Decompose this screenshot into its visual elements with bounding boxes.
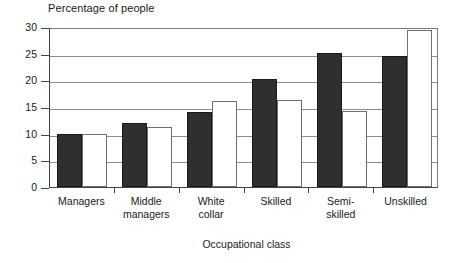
x-label-line: White	[179, 195, 244, 208]
y-tick-label: 20	[25, 74, 37, 86]
x-label-unskilled: Unskilled	[373, 195, 438, 208]
x-label-skilled: Skilled	[244, 195, 309, 208]
y-tick-label: 15	[25, 101, 37, 113]
y-tick-label: 30	[25, 21, 37, 33]
x-tick-mark	[179, 188, 180, 193]
bar-dark	[187, 112, 212, 187]
plot-area	[49, 28, 438, 188]
bar-group	[309, 29, 374, 187]
x-axis-ticks	[49, 188, 438, 194]
x-tick-mark	[308, 188, 309, 193]
bar-group	[245, 29, 310, 187]
y-tick: 15	[0, 108, 49, 109]
y-tick-label: 5	[31, 154, 37, 166]
x-axis-title: Occupational class	[0, 238, 465, 250]
y-tick-label: 10	[25, 128, 37, 140]
bar-light	[147, 127, 172, 187]
y-tick-mark	[41, 188, 49, 189]
bar-dark	[57, 134, 82, 187]
bar-light	[212, 101, 237, 187]
x-axis-title-text: Occupational class	[202, 238, 290, 250]
y-tick: 10	[0, 135, 49, 136]
x-label-line: Middle	[114, 195, 179, 208]
bar-group	[50, 29, 115, 187]
bar-chart-figure: Percentage of people 051015202530 Manage…	[0, 0, 465, 263]
x-tick-mark	[244, 188, 245, 193]
x-label-line: collar	[179, 208, 244, 221]
x-label-line: skilled	[308, 208, 373, 221]
x-label-line: Unskilled	[373, 195, 438, 208]
bar-light	[82, 134, 107, 187]
y-tick: 5	[0, 161, 49, 162]
bar-dark	[122, 123, 147, 187]
x-tick-mark	[373, 188, 374, 193]
y-axis-title: Percentage of people	[48, 2, 155, 14]
y-tick-mark	[41, 55, 49, 56]
x-axis-category-labels: ManagersMiddlemanagersWhitecollarSkilled…	[49, 195, 438, 235]
bars-layer	[50, 29, 437, 187]
y-tick-mark	[41, 135, 49, 136]
bar-group	[180, 29, 245, 187]
bar-group	[374, 29, 439, 187]
bar-light	[407, 30, 432, 187]
x-label-semi-skilled: Semi-skilled	[308, 195, 373, 221]
y-tick-mark	[41, 81, 49, 82]
x-label-line: managers	[114, 208, 179, 221]
x-tick-mark	[114, 188, 115, 193]
y-tick-mark	[41, 108, 49, 109]
x-label-middle-managers: Middlemanagers	[114, 195, 179, 221]
bar-light	[342, 111, 367, 187]
x-label-managers: Managers	[49, 195, 114, 208]
y-tick: 25	[0, 55, 49, 56]
x-label-line: Skilled	[244, 195, 309, 208]
bar-dark	[317, 53, 342, 187]
y-tick-label: 25	[25, 48, 37, 60]
y-tick: 30	[0, 28, 49, 29]
y-tick: 0	[0, 188, 49, 189]
y-tick: 20	[0, 81, 49, 82]
x-label-line: Managers	[49, 195, 114, 208]
y-tick-mark	[41, 161, 49, 162]
y-tick-mark	[41, 28, 49, 29]
bar-light	[277, 100, 302, 187]
bar-group	[115, 29, 180, 187]
bar-dark	[252, 79, 277, 187]
y-axis-ticks: 051015202530	[0, 0, 49, 263]
y-tick-label: 0	[31, 181, 37, 193]
x-label-line: Semi-	[308, 195, 373, 208]
bar-dark	[382, 56, 407, 187]
x-label-white-collar: Whitecollar	[179, 195, 244, 221]
